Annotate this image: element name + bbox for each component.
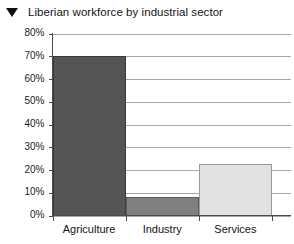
x-axis-tick-labels: AgricultureIndustryServices — [63, 223, 257, 235]
triangle-down-icon — [6, 8, 18, 17]
y-axis-tick-labels: 0%10%20%30%40%50%60%70%80% — [24, 27, 44, 220]
y-axis-tick-label: 50% — [24, 95, 44, 106]
y-axis-tick-label: 10% — [24, 186, 44, 197]
bar-services[interactable]: Services: 22.5% — [200, 165, 272, 216]
chart-plot-area: Agriculture: 70%Industry: 8%Services: 22… — [0, 24, 294, 244]
page-title: Liberian workforce by industrial sector — [28, 6, 223, 19]
y-axis-tick-label: 20% — [24, 164, 44, 175]
y-axis-tick-label: 0% — [30, 209, 45, 220]
bar-industry[interactable]: Industry: 8% — [127, 198, 199, 216]
x-axis-label-agriculture: Agriculture — [63, 223, 116, 235]
bar-chart-svg: Agriculture: 70%Industry: 8%Services: 22… — [0, 24, 294, 244]
x-axis-label-industry: Industry — [143, 223, 183, 235]
y-axis-tick-label: 30% — [24, 141, 44, 152]
y-axis-tick-label: 80% — [24, 27, 44, 38]
y-axis-tick-label: 60% — [24, 73, 44, 84]
bars: Agriculture: 70%Industry: 8%Services: 22… — [54, 57, 272, 216]
x-axis-label-services: Services — [214, 223, 257, 235]
y-axis-tick-label: 70% — [24, 50, 44, 61]
y-axis-tick-label: 40% — [24, 118, 44, 129]
bar-agriculture[interactable]: Agriculture: 70% — [54, 57, 126, 216]
chart-header: Liberian workforce by industrial sector — [0, 0, 294, 24]
